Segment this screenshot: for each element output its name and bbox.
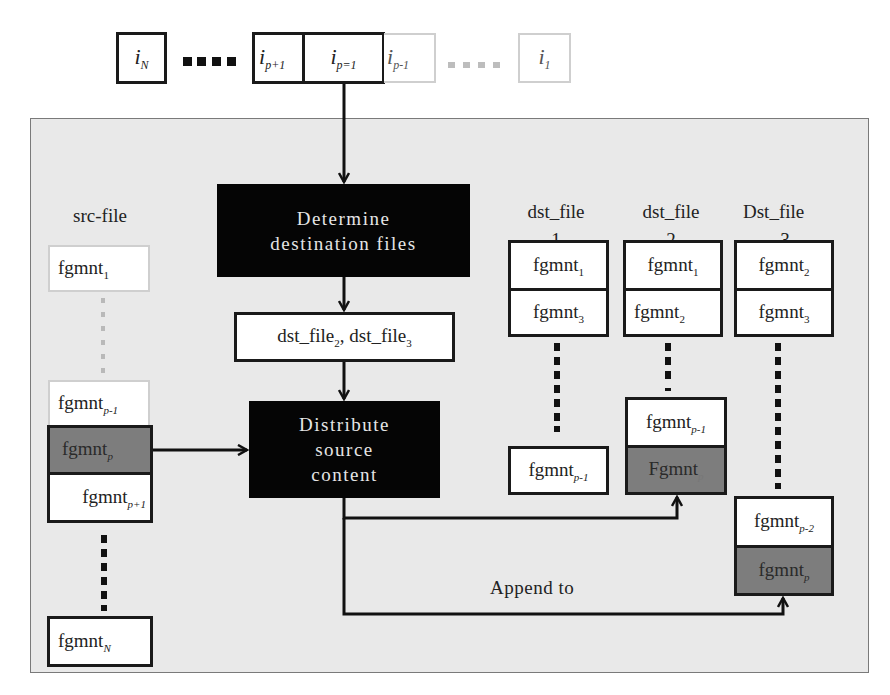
dst-1-fragment: fgmnt3 (508, 288, 609, 337)
file-name: dst_file (277, 325, 334, 346)
file-sub: 3 (406, 337, 412, 349)
dst-2-fragment: fgmnt2 (623, 288, 723, 337)
dst-2-fragment: fgmnt1 (623, 240, 723, 291)
src-fragment: fgmntp+1 (47, 472, 153, 523)
fragment-name: Fgmnt (648, 458, 698, 479)
fragment-sub: 2 (679, 313, 685, 325)
append-to-label: Append to (490, 577, 574, 599)
fragment-name: fgmnt (82, 486, 127, 507)
step-label-line: source (315, 437, 374, 462)
fragment-sub: 2 (804, 266, 810, 278)
src-fragment: fgmntN (47, 616, 153, 667)
selected-destination-files: dst_file2, dst_file3 (234, 312, 455, 362)
dst-1-fragment: fgmnt1 (508, 240, 609, 291)
dst-1-fragment: fgmntp-1 (508, 446, 609, 495)
determine-destination-step: Determine destination files (217, 184, 470, 277)
dst-2-fragment-appended: Fgmntp (625, 445, 727, 495)
fragment-name: fgmnt (533, 254, 578, 275)
fragment-name: fgmnt (528, 459, 573, 480)
fragment-name: fgmnt (58, 630, 103, 651)
fragment-name: fgmnt (646, 411, 691, 432)
fragment-sub: p-1 (574, 471, 589, 483)
fragment-name: fgmnt (634, 301, 679, 322)
distribute-content-step: Distribute source content (249, 401, 440, 498)
dst-3-fragment-appended: fgmntp (734, 545, 834, 596)
fragment-name: fgmnt (759, 254, 804, 275)
dst-file-label-line: dst_file (617, 198, 725, 226)
dst-2-fragment: fgmntp-1 (625, 397, 727, 448)
dst-3-fragment: fgmnt2 (734, 240, 834, 291)
fragment-sub: 3 (578, 313, 584, 325)
fragment-name: fgmnt (759, 301, 804, 322)
step-label-line: content (311, 462, 377, 487)
step-label-line: Determine (297, 206, 391, 231)
file-name: dst_file (349, 325, 406, 346)
dst-3-fragment: fgmnt3 (734, 288, 834, 337)
src-file-label: src-file (40, 202, 160, 229)
src-fragment-current: fgmntp (47, 425, 153, 475)
fragment-name: fgmnt (58, 392, 103, 413)
fragment-sub: p (107, 450, 113, 462)
fragment-sub: p-1 (103, 404, 118, 416)
fragment-sub: 3 (804, 313, 810, 325)
fragment-sub: 1 (103, 269, 109, 281)
separator: , (340, 325, 350, 346)
dst-file-label-line: dst_file (502, 198, 610, 226)
fragment-sub: p (698, 470, 704, 482)
fragment-sub: p-1 (691, 423, 706, 435)
fragment-sub: 1 (578, 266, 584, 278)
step-label-line: Distribute (299, 412, 390, 437)
fragment-sub: N (103, 642, 110, 654)
fragment-sub: p+1 (128, 498, 146, 510)
step-label-line: destination files (270, 231, 416, 256)
fragment-name: fgmnt (648, 254, 693, 275)
dst-3-fragment: fgmntp-2 (734, 496, 834, 548)
fragment-name: fgmnt (759, 559, 804, 580)
dst-file-label-line: Dst_file (743, 198, 827, 226)
fragment-sub: p (804, 571, 810, 583)
fragment-name: fgmnt (754, 510, 799, 531)
src-fragment: fgmnt1 (48, 245, 150, 292)
fragment-name: fgmnt (62, 438, 107, 459)
fragment-name: fgmnt (58, 257, 103, 278)
fragment-name: fgmnt (533, 301, 578, 322)
fragment-sub: p-2 (799, 522, 814, 534)
fragment-sub: 1 (693, 266, 699, 278)
src-fragment: fgmntp-1 (48, 380, 150, 426)
